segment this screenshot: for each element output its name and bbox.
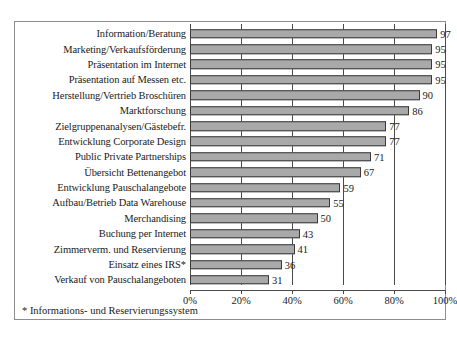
category-label: Public Private Partnerships <box>15 151 190 162</box>
bar <box>190 244 295 254</box>
x-axis-tick-label: 20% <box>231 295 250 306</box>
bar-value-label: 95 <box>432 74 446 85</box>
bar-value-label: 71 <box>371 151 385 162</box>
plot-area: Information/Beratung97Marketing/Verkaufs… <box>15 22 445 292</box>
bar <box>190 106 409 116</box>
category-label: Verkauf von Pauschalangeboten <box>15 274 190 285</box>
category-label: Marktforschung <box>15 105 190 116</box>
bar-row: Präsentation im Internet95 <box>15 57 445 72</box>
x-axis-tick <box>292 290 293 294</box>
bar-row: Einsatz eines IRS*36 <box>15 257 445 272</box>
bar-value-label: 55 <box>330 197 344 208</box>
bar <box>190 229 300 239</box>
x-axis-tick-label: 100% <box>433 295 457 306</box>
bar-value-label: 86 <box>409 105 423 116</box>
bar-value-label: 97 <box>437 28 451 39</box>
bar <box>190 214 318 224</box>
bar-track: 71 <box>190 149 445 164</box>
footnote: * Informations- und Reservierungssystem <box>22 305 198 317</box>
bar <box>190 260 282 270</box>
bar-value-label: 95 <box>432 59 446 70</box>
category-label: Übersicht Bettenangebot <box>15 167 190 178</box>
bar-value-label: 77 <box>386 121 400 132</box>
bar-value-label: 77 <box>386 136 400 147</box>
x-axis-tick <box>343 290 344 294</box>
x-axis-tick <box>190 290 191 294</box>
bar-track: 55 <box>190 195 445 210</box>
category-label: Herstellung/Vertrieb Broschüren <box>15 90 190 101</box>
bar-track: 43 <box>190 226 445 241</box>
bar-row: Verkauf von Pauschalangeboten31 <box>15 272 445 287</box>
category-label: Präsentation auf Messen etc. <box>15 74 190 85</box>
bar-track: 50 <box>190 211 445 226</box>
bar-row: Public Private Partnerships71 <box>15 149 445 164</box>
bar-row: Marktforschung86 <box>15 103 445 118</box>
bar <box>190 275 269 285</box>
bar-row: Zimmerverm. und Reservierung41 <box>15 241 445 256</box>
category-label: Information/Beratung <box>15 28 190 39</box>
x-axis-tick <box>445 290 446 294</box>
bar <box>190 60 432 70</box>
x-axis-tick <box>394 290 395 294</box>
bar <box>190 152 371 162</box>
category-label: Einsatz eines IRS* <box>15 259 190 270</box>
bar <box>190 167 361 177</box>
x-axis-tick-label: 40% <box>282 295 301 306</box>
footnote-text: Informations- und Reservierungssystem <box>27 305 198 316</box>
bar-track: 95 <box>190 72 445 87</box>
category-label: Marketing/Verkaufsförderung <box>15 44 190 55</box>
bar-row: Zielgruppenanalysen/Gästebefr.77 <box>15 118 445 133</box>
bar <box>190 137 386 147</box>
bar-value-label: 95 <box>432 44 446 55</box>
category-label: Zimmerverm. und Reservierung <box>15 244 190 255</box>
bar-row: Entwicklung Corporate Design77 <box>15 134 445 149</box>
bar-value-label: 41 <box>295 244 309 255</box>
x-axis-line <box>190 290 445 291</box>
bar-row: Merchandising50 <box>15 211 445 226</box>
bar-row: Entwicklung Pauschalangebote59 <box>15 180 445 195</box>
category-label: Buchung per Internet <box>15 228 190 239</box>
bar-track: 41 <box>190 241 445 256</box>
category-label: Präsentation im Internet <box>15 59 190 70</box>
bar-track: 95 <box>190 41 445 56</box>
bar <box>190 183 340 193</box>
bar-track: 67 <box>190 165 445 180</box>
bar <box>190 198 330 208</box>
bar-value-label: 50 <box>318 213 332 224</box>
bar <box>190 91 420 101</box>
bar-track: 90 <box>190 88 445 103</box>
bar-track: 86 <box>190 103 445 118</box>
bar <box>190 121 386 131</box>
bar-track: 36 <box>190 257 445 272</box>
bar <box>190 44 432 54</box>
bar-value-label: 67 <box>361 167 375 178</box>
category-label: Aufbau/Betrieb Data Warehouse <box>15 197 190 208</box>
bar-row: Übersicht Bettenangebot67 <box>15 165 445 180</box>
bar-track: 31 <box>190 272 445 287</box>
bar-row: Präsentation auf Messen etc.95 <box>15 72 445 87</box>
category-label: Merchandising <box>15 213 190 224</box>
bar-value-label: 59 <box>340 182 354 193</box>
bar-value-label: 90 <box>420 90 434 101</box>
bar <box>190 29 437 39</box>
bar <box>190 75 432 85</box>
bar-track: 95 <box>190 57 445 72</box>
bar-chart: Information/Beratung97Marketing/Verkaufs… <box>14 21 446 320</box>
category-label: Entwicklung Corporate Design <box>15 136 190 147</box>
bar-track: 77 <box>190 134 445 149</box>
bar-row: Aufbau/Betrieb Data Warehouse55 <box>15 195 445 210</box>
bar-rows: Information/Beratung97Marketing/Verkaufs… <box>15 26 445 288</box>
bar-row: Marketing/Verkaufsförderung95 <box>15 41 445 56</box>
bar-row: Information/Beratung97 <box>15 26 445 41</box>
bar-value-label: 36 <box>282 259 296 270</box>
x-axis-tick <box>241 290 242 294</box>
x-axis-tick-label: 60% <box>333 295 352 306</box>
bar-track: 59 <box>190 180 445 195</box>
category-label: Zielgruppenanalysen/Gästebefr. <box>15 121 190 132</box>
bar-track: 77 <box>190 118 445 133</box>
bar-value-label: 31 <box>269 274 283 285</box>
x-axis-tick-label: 80% <box>384 295 403 306</box>
bar-row: Herstellung/Vertrieb Broschüren90 <box>15 88 445 103</box>
bar-track: 97 <box>190 26 445 41</box>
bar-value-label: 43 <box>300 228 314 239</box>
